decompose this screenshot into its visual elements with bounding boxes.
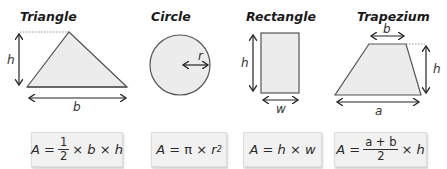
triangle-formula-fraction: 1 2 [58, 137, 69, 163]
rectangle-formula: A = h × w [249, 142, 315, 157]
rectangle-formula-box: A = h × w [243, 132, 322, 167]
trapezium-formula-denominator: 2 [377, 150, 384, 163]
triangle-height-label: h [7, 53, 15, 67]
triangle-formula-box: A = 1 2 × b × h [31, 132, 123, 167]
triangle-formula-numerator: 1 [58, 137, 69, 151]
trapezium-top-label: b [383, 22, 391, 36]
trapezium-formula-lhs: A = [336, 142, 360, 157]
circle-formula-pi: π [184, 142, 192, 157]
rectangle-shape [253, 33, 299, 100]
rectangle-height-label: h [241, 56, 249, 70]
circle-shape [150, 35, 210, 95]
circle-formula-lhs: A = [156, 142, 180, 157]
trapezium-formula-rest: × h [401, 142, 424, 157]
trapezium-bottom-label: a [375, 104, 382, 118]
trapezium-shape [335, 36, 426, 102]
circle-formula-exponent: 2 [217, 145, 222, 154]
trapezium-formula-numerator: a + b [363, 137, 398, 151]
triangle-formula-rest: × b × h [72, 142, 123, 157]
rectangle-width-label: w [276, 102, 286, 116]
triangle-formula-lhs: A = [31, 142, 55, 157]
circle-radius-label: r [198, 49, 203, 63]
triangle-shape [19, 32, 127, 98]
circle-formula-box: A = π × r2 [151, 132, 227, 167]
trapezium-formula-box: A = a + b 2 × h [334, 132, 427, 167]
circle-formula-times: × [196, 142, 207, 157]
trapezium-height-label: h [433, 62, 441, 76]
triangle-base-label: b [73, 100, 81, 114]
trapezium-formula-fraction: a + b 2 [363, 137, 398, 163]
triangle-formula-denominator: 2 [60, 150, 67, 163]
